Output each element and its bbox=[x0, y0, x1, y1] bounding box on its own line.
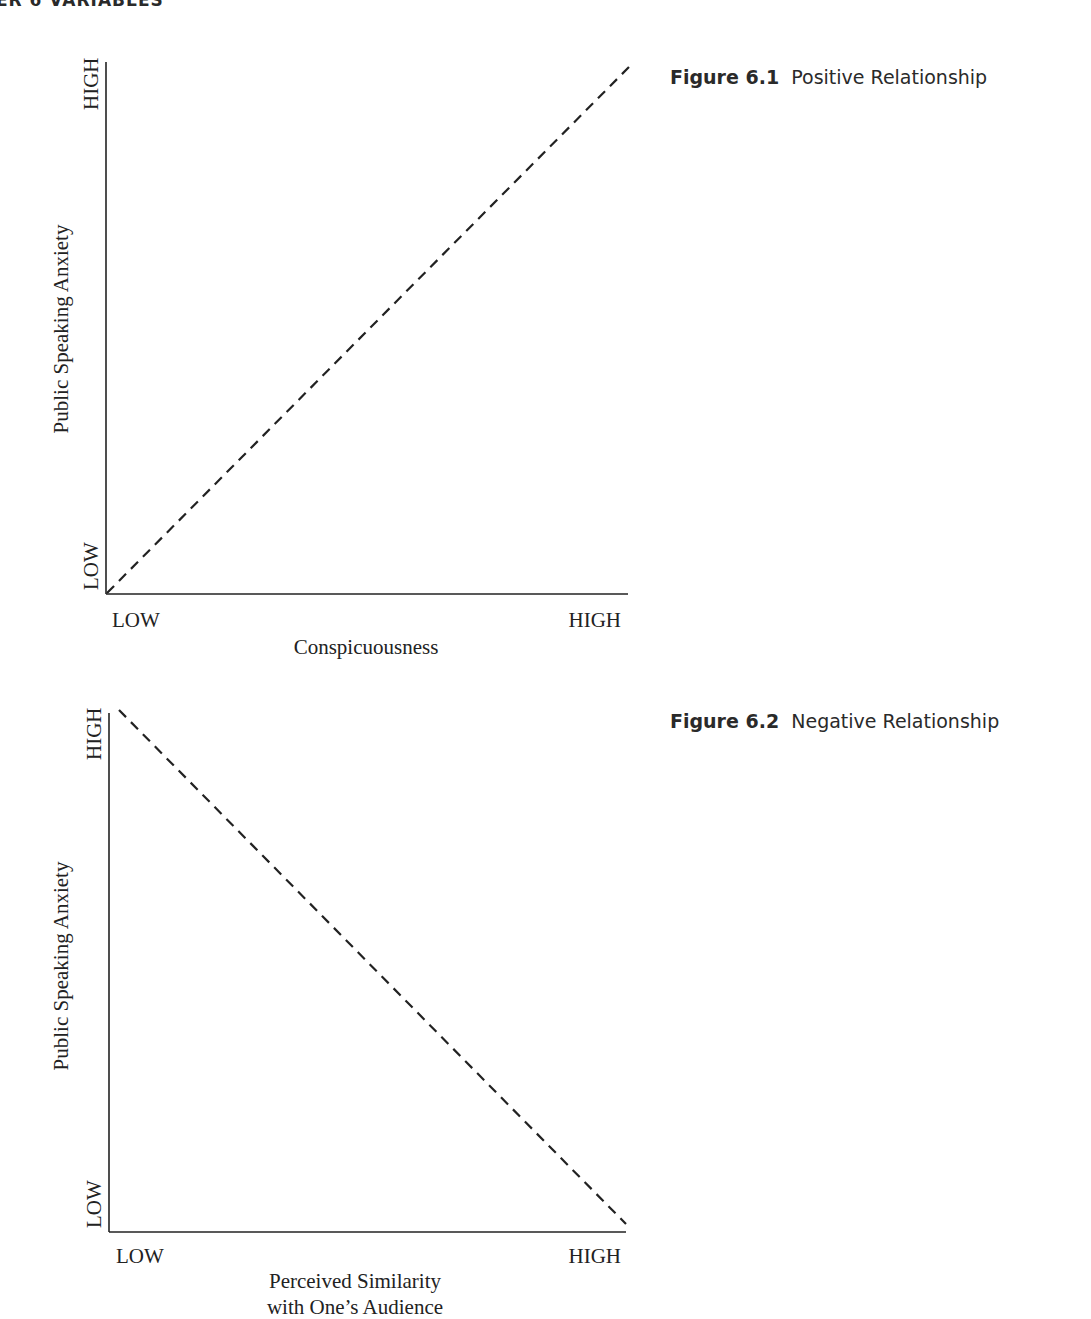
y-axis-title-2: Public Speaking Anxiety bbox=[49, 861, 73, 1070]
figure-6-1-chart: HIGH LOW Public Speaking Anxiety LOW HIG… bbox=[0, 0, 1091, 1319]
x-axis-title-line1: Perceived Similarity bbox=[269, 1269, 442, 1293]
y-low-tick: LOW bbox=[79, 542, 103, 590]
y-low-tick-2: LOW bbox=[82, 1180, 106, 1228]
figure-6-1-caption: Figure 6.1 Positive Relationship bbox=[670, 66, 987, 88]
figure-label: Figure 6.1 bbox=[670, 66, 779, 88]
x-axis-title: Conspicuousness bbox=[294, 635, 439, 659]
x-low-tick: LOW bbox=[112, 608, 160, 632]
x-low-tick-2: LOW bbox=[116, 1244, 164, 1268]
figure-title: Negative Relationship bbox=[791, 710, 999, 732]
x-high-tick-2: HIGH bbox=[569, 1244, 622, 1268]
figure-label: Figure 6.2 bbox=[670, 710, 779, 732]
x-high-tick: HIGH bbox=[569, 608, 622, 632]
y-high-tick: HIGH bbox=[79, 58, 103, 111]
figure-6-2-caption: Figure 6.2 Negative Relationship bbox=[670, 710, 999, 732]
x-axis-title-line2: with One’s Audience bbox=[267, 1295, 443, 1319]
y-axis-title: Public Speaking Anxiety bbox=[49, 224, 73, 433]
y-high-tick-2: HIGH bbox=[82, 708, 106, 761]
positive-relationship-line bbox=[107, 67, 629, 593]
figure-title: Positive Relationship bbox=[791, 66, 987, 88]
negative-relationship-line bbox=[119, 710, 626, 1224]
